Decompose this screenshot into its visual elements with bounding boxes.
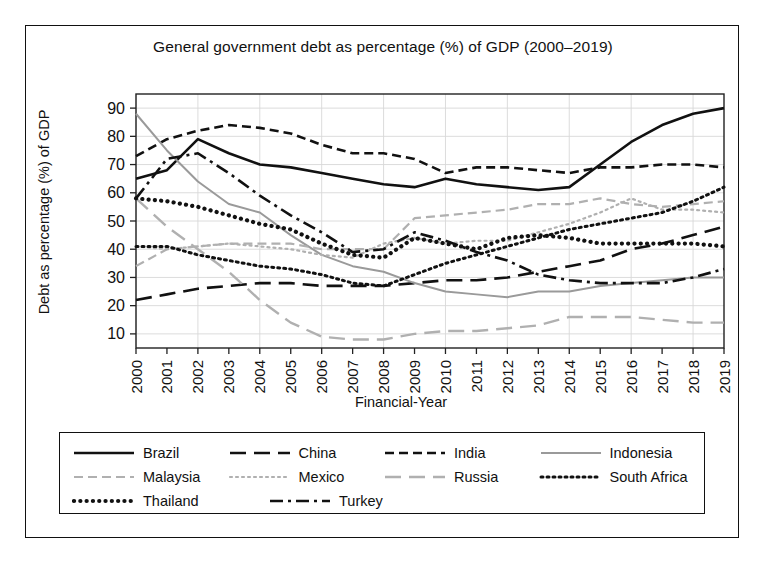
legend-item-turkey[interactable]: Turkey: [268, 493, 458, 509]
x-tick-label: 2009: [406, 360, 423, 393]
y-axis-title: Debt as percentage (%) of GDP: [36, 82, 52, 342]
legend-label-turkey: Turkey: [339, 493, 383, 509]
legend-label-mexico: Mexico: [299, 469, 345, 485]
y-tick-label: 90: [107, 100, 125, 117]
series-line-turkey: [136, 153, 724, 283]
x-tick-label: 2000: [128, 360, 145, 393]
legend-label-south-africa: South Africa: [610, 469, 688, 485]
legend-swatch-south-africa: [539, 470, 603, 484]
y-tick-label: 30: [107, 269, 125, 286]
x-tick-label: 2002: [189, 360, 206, 393]
x-tick-label: 2013: [530, 360, 547, 393]
legend-swatch-malaysia: [72, 470, 136, 484]
x-tick-label: 2011: [468, 360, 485, 392]
x-tick-label: 2019: [716, 360, 733, 393]
legend-item-russia[interactable]: Russia: [383, 469, 533, 485]
x-tick-label: 2017: [654, 360, 671, 393]
legend-swatch-india: [383, 446, 447, 460]
legend-swatch-russia: [383, 470, 447, 484]
series-line-india: [136, 125, 724, 173]
legend-swatch-mexico: [228, 470, 292, 484]
legend-swatch-brazil: [72, 446, 136, 460]
legend-swatch-china: [228, 446, 292, 460]
legend-item-china[interactable]: China: [228, 445, 378, 461]
legend-row: BrazilChinaIndiaIndonesia: [72, 441, 694, 465]
y-tick-label: 50: [107, 213, 125, 230]
legend-item-brazil[interactable]: Brazil: [72, 445, 222, 461]
legend-label-malaysia: Malaysia: [143, 469, 200, 485]
x-tick-label: 2004: [251, 360, 268, 393]
series-line-malaysia: [136, 198, 724, 266]
legend-label-indonesia: Indonesia: [610, 445, 673, 461]
y-tick-label: 20: [107, 297, 125, 314]
x-tick-label: 2006: [313, 360, 330, 393]
y-tick-label: 10: [107, 325, 125, 342]
figure-frame: General government debt as percentage (%…: [25, 25, 739, 538]
x-tick-label: 2016: [623, 360, 640, 393]
legend-label-india: India: [454, 445, 485, 461]
y-tick-label: 60: [107, 184, 125, 201]
x-tick-label: 2015: [592, 360, 609, 393]
x-axis-title: Financial-Year: [81, 394, 721, 410]
x-tick-label: 2001: [158, 360, 175, 393]
y-tick-label: 80: [107, 128, 125, 145]
legend-label-china: China: [299, 445, 337, 461]
legend-row: MalaysiaMexicoRussiaSouth Africa: [72, 465, 694, 489]
series-line-brazil: [136, 108, 724, 190]
y-tick-label: 40: [107, 241, 125, 258]
legend-item-mexico[interactable]: Mexico: [228, 469, 378, 485]
x-tick-label: 2008: [375, 360, 392, 393]
chart-legend: BrazilChinaIndiaIndonesiaMalaysiaMexicoR…: [59, 432, 705, 514]
plot-area: 1020304050607080902000200120022003200420…: [26, 26, 740, 416]
legend-label-brazil: Brazil: [143, 445, 179, 461]
legend-swatch-thailand: [72, 494, 136, 508]
legend-label-russia: Russia: [454, 469, 498, 485]
legend-swatch-turkey: [268, 494, 332, 508]
legend-item-indonesia[interactable]: Indonesia: [539, 445, 689, 461]
legend-item-south-africa[interactable]: South Africa: [539, 469, 689, 485]
x-tick-label: 2010: [437, 360, 454, 393]
x-tick-label: 2012: [499, 360, 516, 393]
legend-label-thailand: Thailand: [143, 493, 199, 509]
x-tick-label: 2007: [344, 360, 361, 393]
x-tick-label: 2014: [561, 360, 578, 393]
x-tick-label: 2018: [685, 360, 702, 393]
legend-row: ThailandTurkey: [72, 489, 694, 513]
legend-item-india[interactable]: India: [383, 445, 533, 461]
line-chart-svg: 1020304050607080902000200120022003200420…: [26, 26, 740, 416]
x-tick-label: 2005: [282, 360, 299, 393]
y-tick-label: 70: [107, 156, 125, 173]
legend-swatch-indonesia: [539, 446, 603, 460]
legend-item-malaysia[interactable]: Malaysia: [72, 469, 222, 485]
x-tick-label: 2003: [220, 360, 237, 393]
legend-item-thailand[interactable]: Thailand: [72, 493, 262, 509]
